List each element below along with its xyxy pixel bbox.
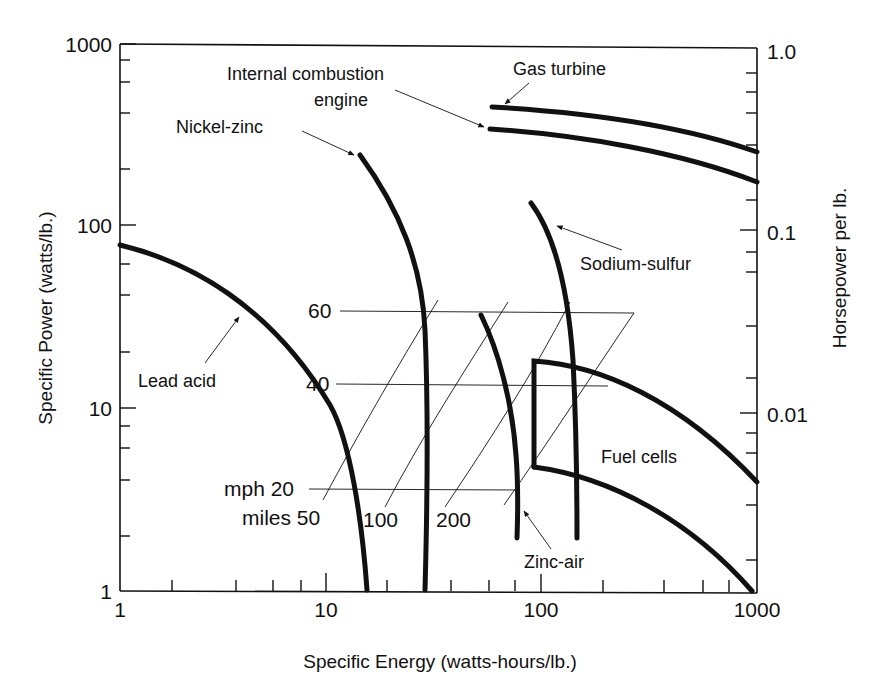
annotation-labels: Internal combustion engine Gas turbine N…	[138, 59, 691, 572]
curve-fuel-cells-lower	[534, 467, 752, 591]
speed-lines	[309, 311, 634, 490]
label-zinc-air: Zinc-air	[524, 552, 584, 572]
label-100mi: 100	[363, 508, 398, 531]
y-tick-labels: 1000 100 10 1	[65, 33, 112, 603]
label-mph-20: mph 20	[224, 477, 294, 500]
label-internal-combustion: Internal combustion	[227, 64, 384, 84]
range-lines	[323, 300, 634, 507]
label-miles-50: miles 50	[242, 506, 320, 529]
x-tick-10: 10	[314, 598, 337, 621]
speed-line-40mph	[336, 384, 608, 386]
y2-tick-1.0: 1.0	[767, 40, 796, 63]
x-tick-100: 100	[523, 598, 558, 621]
arrow-internal-combustion	[395, 90, 484, 127]
speed-line-60mph	[340, 311, 634, 313]
arrow-nickel-zinc	[302, 131, 354, 155]
label-engine: engine	[314, 90, 368, 110]
label-sodium-sulfur: Sodium-sulfur	[580, 254, 691, 274]
label-fuel-cells: Fuel cells	[601, 447, 677, 467]
y2-axis-title: Horsepower per lb.	[829, 188, 850, 349]
x-tick-labels: 1 10 100 1000	[114, 598, 780, 621]
curve-internal-combustion	[490, 129, 757, 182]
y-axis-ticks	[120, 44, 136, 536]
curve-lead-acid	[120, 245, 367, 590]
arrow-lead-acid	[205, 317, 239, 363]
arrow-zinc-air	[524, 511, 551, 549]
y2-tick-0.01: 0.01	[767, 403, 808, 426]
y-tick-1000: 1000	[65, 33, 112, 56]
label-200mi: 200	[436, 508, 471, 531]
y-tick-100: 100	[77, 214, 112, 237]
label-lead-acid: Lead acid	[138, 371, 216, 391]
label-40mph: 40	[306, 372, 329, 395]
y2-tick-0.1: 0.1	[767, 221, 796, 244]
energy-power-chart: 1000 100 10 1 1 10 100 1000 1.0 0.1 0.01…	[0, 0, 881, 687]
arrow-gas-turbine	[505, 83, 529, 104]
x-tick-1000: 1000	[734, 598, 781, 621]
label-nickel-zinc: Nickel-zinc	[176, 117, 263, 137]
y-tick-1: 1	[100, 580, 112, 603]
x-axis-title: Specific Energy (watts-hours/lb.)	[303, 651, 577, 672]
curve-zinc-air	[481, 315, 518, 538]
range-line-50mi	[323, 300, 438, 500]
speed-line-20mph	[309, 489, 516, 490]
y-tick-10: 10	[89, 397, 112, 420]
y-axis-title: Specific Power (watts/lb.)	[35, 211, 56, 424]
x-tick-1: 1	[114, 598, 126, 621]
curve-sodium-sulfur	[531, 203, 577, 538]
overlay-labels: 60 40 mph 20 miles 50 100 200	[224, 299, 471, 531]
y2-tick-labels: 1.0 0.1 0.01	[767, 40, 808, 426]
arrow-sodium-sulfur	[557, 226, 622, 250]
label-60mph: 60	[308, 299, 331, 322]
x-axis-ticks	[172, 573, 729, 592]
label-gas-turbine: Gas turbine	[513, 59, 606, 79]
